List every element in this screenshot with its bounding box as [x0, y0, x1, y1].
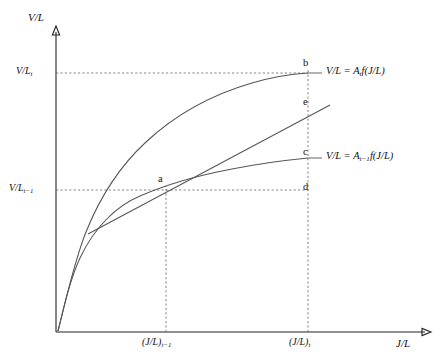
- upper-curve-path: [58, 73, 308, 331]
- y-tick-lower-sub: t−1: [23, 187, 33, 194]
- curves-group: [58, 73, 330, 331]
- point-label-d: d: [303, 182, 308, 193]
- x-tick-left: (J/L)t−1: [142, 337, 171, 349]
- y-tick-upper: V/Lt: [16, 66, 32, 78]
- lower-curve-equation-tail: f(J/L): [370, 150, 393, 161]
- point-label-a: a: [158, 174, 163, 185]
- y-tick-upper-sub: t: [30, 70, 32, 77]
- lower-curve-equation: V/L = At−1f(J/L): [326, 151, 393, 163]
- upper-curve-equation-tail: f(J/L): [362, 65, 385, 76]
- reference-lines-group: [56, 69, 308, 332]
- diagram-canvas: V/L J/L V/Lt V/Lt−1 (J/L)t−1 (J/L)t b e …: [0, 0, 443, 363]
- x-axis-title: J/L: [396, 338, 410, 349]
- lower-curve-equation-sub: t−1: [360, 155, 370, 163]
- x-tick-left-sub: t−1: [161, 341, 171, 348]
- x-tick-right: (J/L)t: [289, 337, 310, 349]
- point-label-c: c: [303, 147, 308, 158]
- upper-curve-equation: V/L = Atf(J/L): [326, 66, 385, 78]
- point-label-e: e: [303, 97, 308, 108]
- x-tick-right-sub: t: [308, 341, 310, 348]
- y-axis-title: V/L: [28, 12, 44, 23]
- tangent-line-path: [88, 105, 330, 234]
- diagram-svg: [0, 0, 443, 363]
- y-tick-lower: V/Lt−1: [9, 183, 33, 195]
- point-label-b: b: [303, 58, 308, 69]
